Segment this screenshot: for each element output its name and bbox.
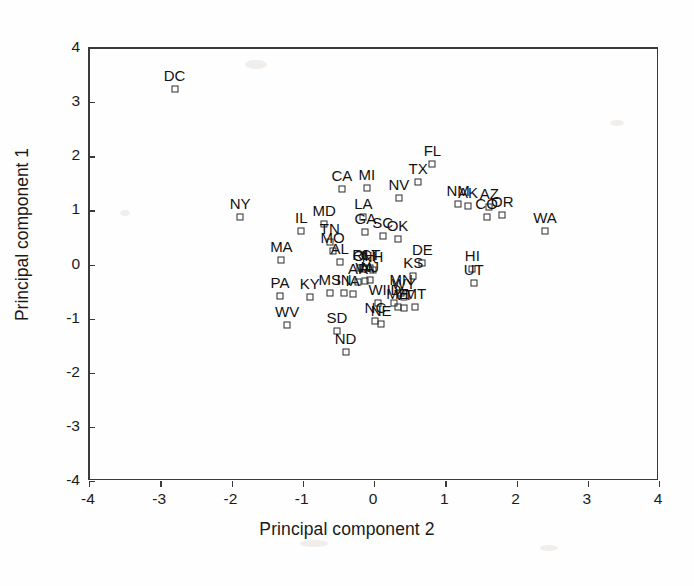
- data-point: [298, 227, 305, 234]
- data-point: [499, 211, 506, 218]
- data-point: [336, 258, 343, 265]
- y-tick: [89, 210, 95, 211]
- data-point: [349, 290, 356, 297]
- data-point-label: WI: [368, 282, 386, 297]
- x-tick: [303, 481, 304, 487]
- y-tick-label: -2: [42, 363, 80, 381]
- data-point: [363, 184, 370, 191]
- y-tick-label: -3: [42, 417, 80, 435]
- data-point-label: IA: [346, 273, 360, 288]
- data-point-label: NE: [371, 303, 392, 318]
- data-point: [542, 227, 549, 234]
- data-point: [341, 289, 348, 296]
- data-point-label: NY: [230, 196, 251, 211]
- data-point-label: MA: [270, 239, 293, 254]
- x-tick-label: -2: [224, 490, 238, 508]
- data-point: [395, 195, 402, 202]
- x-tick-label: -3: [152, 490, 166, 508]
- data-point: [342, 349, 349, 356]
- data-point: [338, 185, 345, 192]
- y-tick: [89, 156, 95, 157]
- data-point-label: MT: [404, 286, 426, 301]
- x-tick-label: 4: [654, 490, 663, 508]
- data-point-label: LA: [354, 196, 372, 211]
- data-point-label: UT: [464, 262, 484, 277]
- y-tick: [89, 48, 95, 49]
- x-tick-label: -4: [81, 490, 95, 508]
- x-tick-label: 0: [369, 490, 378, 508]
- y-tick-label: 2: [42, 146, 80, 164]
- x-tick: [517, 481, 518, 487]
- x-tick: [445, 481, 446, 487]
- data-point: [379, 233, 386, 240]
- data-point: [470, 280, 477, 287]
- y-tick: [89, 265, 95, 266]
- data-point: [276, 292, 283, 299]
- data-point-label: MD: [312, 203, 335, 218]
- data-point-label: SD: [327, 310, 348, 325]
- y-zero-axis: [89, 48, 90, 479]
- y-tick-label: -1: [42, 309, 80, 327]
- data-point: [415, 179, 422, 186]
- data-point-label: ND: [335, 331, 357, 346]
- y-tick-label: 1: [42, 200, 80, 218]
- data-point: [378, 321, 385, 328]
- data-point: [455, 200, 462, 207]
- x-tick: [588, 481, 589, 487]
- data-point: [362, 229, 369, 236]
- y-tick: [89, 102, 95, 103]
- x-tick: [659, 481, 660, 487]
- y-tick: [89, 319, 95, 320]
- data-point: [326, 289, 333, 296]
- data-point-label: TX: [409, 161, 428, 176]
- y-tick-label: 3: [42, 92, 80, 110]
- x-tick: [374, 481, 375, 487]
- data-point-label: WA: [533, 210, 557, 225]
- y-tick: [89, 481, 95, 482]
- data-point: [429, 161, 436, 168]
- y-axis-title: Principal component 1: [12, 85, 33, 385]
- figure-root: DCNYCAMIFLTXNVNMAKAZCOORWAMDLAGAILSCOKTN…: [0, 0, 694, 586]
- data-point: [483, 213, 490, 220]
- data-point: [412, 303, 419, 310]
- data-point-label: WV: [275, 304, 299, 319]
- data-point-label: FL: [424, 143, 442, 158]
- data-point: [278, 257, 285, 264]
- data-point: [171, 85, 178, 92]
- scan-speck: [300, 540, 328, 547]
- data-point-label: KS: [403, 255, 423, 270]
- data-point: [237, 213, 244, 220]
- data-point-label: IL: [295, 210, 308, 225]
- scan-speck: [540, 545, 558, 551]
- data-point-label: OK: [387, 218, 409, 233]
- x-tick-label: 1: [440, 490, 449, 508]
- data-point: [284, 322, 291, 329]
- data-point-label: CA: [332, 168, 353, 183]
- x-tick-label: -1: [295, 490, 309, 508]
- data-point: [400, 304, 407, 311]
- data-point-label: NV: [389, 177, 410, 192]
- x-tick-label: 2: [511, 490, 520, 508]
- x-axis-title: Principal component 2: [0, 519, 694, 540]
- x-zero-axis: [89, 48, 657, 49]
- data-point: [394, 235, 401, 242]
- data-point: [306, 293, 313, 300]
- data-point-label: DC: [164, 68, 186, 83]
- data-point-label: OR: [491, 194, 514, 209]
- x-tick: [232, 481, 233, 487]
- y-tick-label: -4: [42, 471, 80, 489]
- data-point: [465, 203, 472, 210]
- y-tick-label: 0: [42, 255, 80, 273]
- data-point-label: MI: [359, 167, 376, 182]
- y-tick-label: 4: [42, 38, 80, 56]
- data-point-label: AL: [331, 241, 349, 256]
- x-tick-label: 3: [582, 490, 591, 508]
- x-tick: [160, 481, 161, 487]
- data-point-label: NJ: [361, 259, 379, 274]
- y-tick: [89, 373, 95, 374]
- plot-area: DCNYCAMIFLTXNVNMAKAZCOORWAMDLAGAILSCOKTN…: [88, 47, 658, 480]
- y-tick: [89, 427, 95, 428]
- data-point-label: KY: [300, 276, 320, 291]
- data-point-label: PA: [270, 275, 289, 290]
